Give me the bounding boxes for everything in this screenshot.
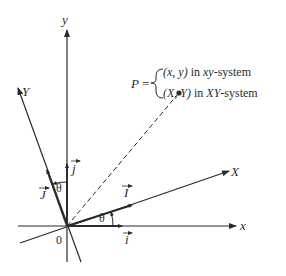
svg-text:I: I [123, 185, 129, 200]
label-origin: 0 [56, 233, 62, 247]
label-J: J [39, 187, 49, 202]
label-P: P [130, 76, 139, 91]
coords-XY-line: (X, Y) in XY-system [163, 86, 258, 100]
theta-label-x: θ [99, 211, 105, 225]
theta-label-y: θ [56, 181, 62, 195]
dashed-line-to-P [67, 94, 178, 226]
brace [151, 69, 163, 98]
equals-sign: = [142, 76, 149, 91]
svg-text:j: j [70, 161, 76, 176]
coords-xy-line: (x, y) in xy-system [163, 65, 252, 79]
unit-vector-J [47, 170, 67, 226]
label-I: I [122, 185, 132, 200]
rotated-axes-diagram: y x X Y 0 i j I J θ θ P = (x, y) in xy-s… [0, 0, 286, 276]
label-X: X [230, 164, 240, 179]
svg-text:i: i [125, 232, 129, 247]
label-Y: Y [22, 84, 31, 99]
angle-arc-x [111, 212, 113, 226]
label-y: y [60, 12, 68, 27]
svg-text:J: J [40, 187, 47, 202]
label-j: j [70, 161, 80, 176]
label-i: i [123, 232, 132, 247]
label-x: x [239, 218, 246, 233]
